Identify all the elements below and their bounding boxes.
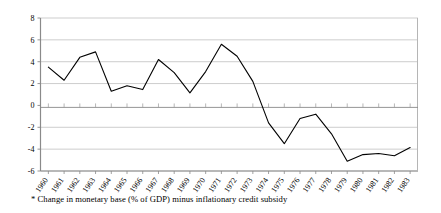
x-tick-label: 1963 (81, 176, 98, 194)
x-tick-label: 1960 (33, 176, 50, 194)
x-tick-label: 1962 (65, 176, 82, 194)
x-tick-label: 1979 (332, 176, 349, 194)
axis-lines (41, 18, 419, 171)
x-tick-label: 1970 (191, 176, 208, 194)
x-tick-label: 1976 (285, 176, 302, 194)
y-tick-label: 4 (31, 58, 35, 67)
x-tick-label: 1981 (364, 176, 381, 194)
x-tick-label: 1973 (238, 176, 255, 194)
x-tick-label: 1971 (206, 176, 223, 194)
x-tick-labels: 1960196119621963196419651966196719681969… (33, 176, 411, 194)
y-tick-label: 2 (31, 79, 35, 88)
y-tick-label: -4 (28, 145, 35, 154)
x-tick-label: 1968 (159, 176, 176, 194)
x-tick-label: 1964 (96, 176, 113, 194)
x-tick-label: 1972 (222, 176, 239, 194)
x-tick-label: 1967 (144, 176, 161, 194)
y-tick-label: 8 (31, 14, 35, 23)
y-tick-label: 0 (31, 101, 35, 110)
x-tick-label: 1975 (269, 176, 286, 194)
x-tick-label: 1983 (395, 176, 412, 194)
x-tick-label: 1974 (254, 176, 271, 194)
x-tick-label: 1961 (49, 176, 66, 194)
x-tick-marks (48, 103, 410, 174)
chart-figure: -6-4-202468 1960196119621963196419651966… (0, 0, 441, 213)
y-tick-label: 6 (31, 36, 35, 45)
x-tick-label: 1966 (128, 176, 145, 194)
line-chart-plot: -6-4-202468 1960196119621963196419651966… (0, 0, 441, 213)
chart-caption: * Change in monetary base (% of GDP) min… (31, 194, 431, 204)
y-tick-label: -6 (28, 167, 35, 176)
x-tick-label: 1977 (301, 176, 318, 194)
x-tick-label: 1969 (175, 176, 192, 194)
x-tick-label: 1982 (379, 176, 396, 194)
y-tick-label: -2 (28, 123, 35, 132)
grid-lines (41, 18, 419, 171)
x-tick-label: 1980 (348, 176, 365, 194)
x-tick-label: 1965 (112, 176, 129, 194)
x-tick-label: 1978 (317, 176, 334, 194)
y-tick-labels: -6-4-202468 (28, 14, 35, 176)
